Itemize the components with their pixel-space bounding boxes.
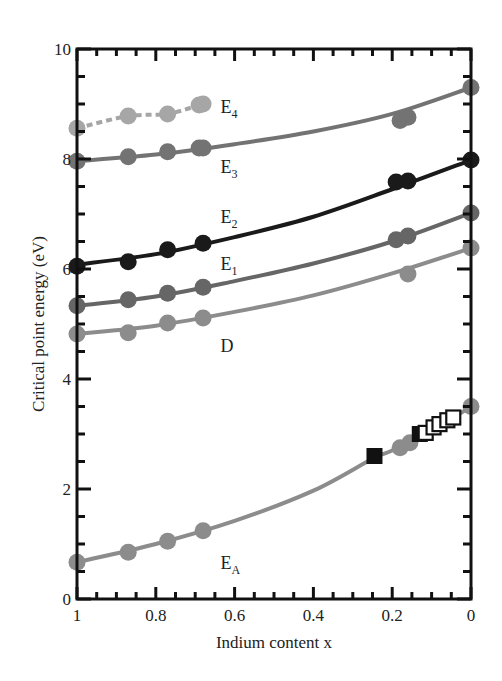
data-point	[195, 140, 212, 157]
plot-frame	[77, 49, 471, 599]
y-axis-title: Critical point energy (eV)	[29, 236, 48, 412]
data-point	[399, 265, 416, 282]
y-tick-label: 0	[63, 590, 72, 609]
data-point	[120, 544, 137, 561]
data-point	[195, 279, 212, 296]
x-tick-label: 0.4	[303, 606, 325, 625]
series-line	[77, 104, 203, 128]
data-point-square	[366, 448, 382, 464]
x-tick-label: 0.8	[145, 606, 166, 625]
data-point-square-open	[446, 411, 460, 425]
series-label-e3: E3	[221, 157, 238, 181]
y-tick-label: 8	[63, 150, 72, 169]
data-point	[195, 309, 212, 326]
y-tick-label: 10	[54, 40, 71, 59]
chart: 024681010.80.60.40.20 E4E3E2E1DEA Indium…	[0, 0, 502, 681]
series-label-ea: EA	[221, 553, 241, 577]
series-label-e4: E4	[221, 97, 238, 121]
data-point	[159, 314, 176, 331]
y-tick-label: 6	[63, 260, 72, 279]
series-label-d: D	[221, 336, 234, 356]
series-e2	[69, 152, 480, 275]
data-point	[120, 324, 137, 341]
data-point	[120, 291, 137, 308]
data-point	[399, 173, 416, 190]
data-point	[159, 241, 176, 258]
y-axis-ticks	[77, 49, 471, 599]
data-point	[195, 96, 212, 113]
tick-labels: 024681010.80.60.40.20	[54, 40, 475, 625]
x-tick-label: 0	[467, 606, 476, 625]
data-point	[120, 253, 137, 270]
x-axis-title: Indium content x	[216, 633, 333, 652]
data-point	[399, 109, 416, 126]
x-tick-label: 1	[73, 606, 82, 625]
x-tick-label: 0.6	[224, 606, 245, 625]
series-ea-open-squares	[419, 411, 461, 440]
data-point	[159, 285, 176, 302]
x-tick-label: 0.2	[382, 606, 403, 625]
y-tick-label: 2	[63, 480, 72, 499]
x-axis-ticks	[77, 49, 471, 599]
series-label-e1: E1	[221, 254, 238, 278]
series-label-e2: E2	[221, 207, 238, 231]
series-e4	[69, 96, 212, 137]
plot-series	[69, 79, 480, 571]
data-point	[159, 533, 176, 550]
data-point	[399, 228, 416, 245]
data-point	[120, 108, 137, 125]
data-point	[159, 143, 176, 160]
data-point	[120, 148, 137, 165]
series-ea	[69, 398, 480, 571]
data-point	[195, 522, 212, 539]
data-point	[195, 235, 212, 252]
data-point	[159, 105, 176, 122]
series-labels: E4E3E2E1DEA	[221, 97, 241, 578]
y-tick-label: 4	[63, 370, 72, 389]
axes	[77, 49, 471, 599]
